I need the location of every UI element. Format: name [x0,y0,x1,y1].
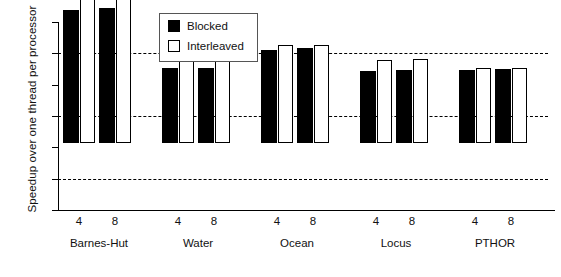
bar-pthor-8-interleaved [512,68,528,143]
bar-ocean-8-interleaved [314,45,330,143]
legend: Blocked Interleaved [159,13,258,62]
legend-item-interleaved: Interleaved [168,40,244,52]
x-sub-label-barnes-hut-4: 4 [59,215,99,227]
bar-water-4-blocked [162,68,178,143]
x-sub-label-water-8: 8 [194,215,234,227]
bar-pthor-4-interleaved [476,68,492,143]
x-sub-label-ocean-8: 8 [293,215,333,227]
x-sub-label-ocean-4: 4 [257,215,297,227]
bar-pthor-8-blocked [495,69,511,143]
x-sub-label-barnes-hut-8: 8 [95,215,135,227]
bar-barnes-hut-4-blocked [63,10,79,143]
x-sub-label-pthor-8: 8 [491,215,531,227]
x-sub-label-pthor-4: 4 [455,215,495,227]
bar-locus-8-interleaved [413,59,429,143]
speedup-bar-chart: Speedup over one thread per processor 3 … [0,0,561,277]
bar-water-8-blocked [198,68,214,143]
legend-item-blocked: Blocked [168,20,228,32]
x-group-label-pthor: PTHOR [435,237,555,249]
legend-label-blocked: Blocked [187,20,228,32]
bar-barnes-hut-8-blocked [99,8,115,143]
x-sub-label-water-4: 4 [158,215,198,227]
hollow-square-icon [168,40,180,52]
bar-ocean-8-blocked [297,48,313,143]
bar-barnes-hut-8-interleaved [116,0,132,143]
bar-barnes-hut-4-interleaved [80,0,96,143]
filled-square-icon [168,20,180,32]
bar-ocean-4-interleaved [278,45,294,143]
bars-layer [0,0,561,210]
bar-locus-4-blocked [360,71,376,143]
bar-locus-4-interleaved [377,60,393,143]
bar-pthor-4-blocked [459,70,475,143]
x-sub-label-locus-8: 8 [392,215,432,227]
x-sub-label-locus-4: 4 [356,215,396,227]
bar-locus-8-blocked [396,70,412,143]
bar-ocean-4-blocked [261,50,277,143]
legend-label-interleaved: Interleaved [187,40,244,52]
